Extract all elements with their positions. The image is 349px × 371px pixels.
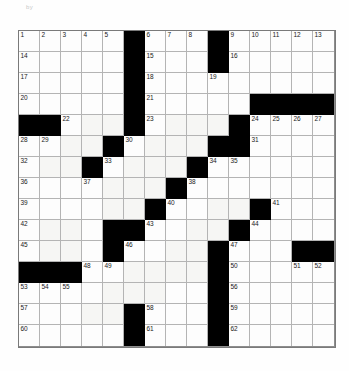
grid-letter-cell[interactable]: 51 [292,262,313,283]
grid-letter-cell[interactable] [187,115,208,136]
grid-letter-cell[interactable] [250,283,271,304]
grid-letter-cell[interactable]: 17 [19,73,40,94]
grid-letter-cell[interactable] [40,73,61,94]
grid-letter-cell[interactable]: 40 [166,199,187,220]
crossword-grid[interactable]: 1234567891011121314151617181920212223242… [18,30,335,347]
grid-letter-cell[interactable]: 28 [19,136,40,157]
grid-letter-cell[interactable]: 3 [61,31,82,52]
grid-letter-cell[interactable] [292,220,313,241]
grid-letter-cell[interactable] [40,304,61,325]
grid-letter-cell[interactable] [166,283,187,304]
grid-letter-cell[interactable] [208,178,229,199]
grid-letter-cell[interactable] [229,178,250,199]
grid-letter-cell[interactable] [145,136,166,157]
grid-letter-cell[interactable] [271,262,292,283]
grid-letter-cell[interactable] [229,73,250,94]
grid-letter-cell[interactable] [82,136,103,157]
grid-letter-cell[interactable]: 27 [313,115,334,136]
grid-letter-cell[interactable] [166,157,187,178]
grid-letter-cell[interactable] [271,283,292,304]
grid-letter-cell[interactable] [166,94,187,115]
grid-letter-cell[interactable]: 35 [229,157,250,178]
grid-letter-cell[interactable] [103,178,124,199]
grid-letter-cell[interactable]: 36 [19,178,40,199]
grid-letter-cell[interactable]: 20 [19,94,40,115]
grid-letter-cell[interactable] [208,220,229,241]
grid-letter-cell[interactable]: 59 [229,304,250,325]
grid-letter-cell[interactable] [292,199,313,220]
grid-letter-cell[interactable]: 2 [40,31,61,52]
grid-letter-cell[interactable] [166,220,187,241]
grid-letter-cell[interactable]: 25 [271,115,292,136]
grid-letter-cell[interactable]: 57 [19,304,40,325]
grid-letter-cell[interactable]: 53 [19,283,40,304]
grid-letter-cell[interactable]: 54 [40,283,61,304]
grid-letter-cell[interactable] [103,94,124,115]
grid-letter-cell[interactable] [313,136,334,157]
grid-letter-cell[interactable] [187,73,208,94]
grid-letter-cell[interactable] [271,178,292,199]
grid-letter-cell[interactable] [166,136,187,157]
grid-letter-cell[interactable] [229,199,250,220]
grid-letter-cell[interactable] [187,220,208,241]
grid-letter-cell[interactable] [271,241,292,262]
grid-letter-cell[interactable] [166,115,187,136]
grid-letter-cell[interactable]: 42 [19,220,40,241]
grid-letter-cell[interactable] [40,94,61,115]
grid-letter-cell[interactable]: 48 [82,262,103,283]
grid-letter-cell[interactable]: 30 [124,136,145,157]
grid-letter-cell[interactable] [292,157,313,178]
grid-letter-cell[interactable] [61,52,82,73]
grid-letter-cell[interactable] [61,241,82,262]
grid-letter-cell[interactable] [82,199,103,220]
grid-letter-cell[interactable]: 50 [229,262,250,283]
grid-letter-cell[interactable] [250,325,271,346]
grid-letter-cell[interactable]: 37 [82,178,103,199]
grid-letter-cell[interactable]: 56 [229,283,250,304]
grid-letter-cell[interactable]: 1 [19,31,40,52]
grid-letter-cell[interactable] [103,52,124,73]
grid-letter-cell[interactable] [103,283,124,304]
grid-letter-cell[interactable]: 5 [103,31,124,52]
grid-letter-cell[interactable] [250,52,271,73]
grid-letter-cell[interactable]: 45 [19,241,40,262]
grid-letter-cell[interactable]: 46 [124,241,145,262]
grid-letter-cell[interactable]: 38 [187,178,208,199]
grid-letter-cell[interactable] [82,94,103,115]
grid-letter-cell[interactable]: 23 [145,115,166,136]
grid-letter-cell[interactable]: 52 [313,262,334,283]
grid-letter-cell[interactable] [250,262,271,283]
grid-letter-cell[interactable] [292,52,313,73]
grid-letter-cell[interactable] [61,325,82,346]
grid-letter-cell[interactable] [82,52,103,73]
grid-letter-cell[interactable]: 6 [145,31,166,52]
grid-letter-cell[interactable]: 8 [187,31,208,52]
grid-letter-cell[interactable] [61,220,82,241]
grid-letter-cell[interactable] [271,73,292,94]
grid-letter-cell[interactable] [40,157,61,178]
grid-letter-cell[interactable]: 44 [250,220,271,241]
grid-letter-cell[interactable] [313,304,334,325]
grid-letter-cell[interactable] [166,304,187,325]
grid-letter-cell[interactable]: 4 [82,31,103,52]
grid-letter-cell[interactable]: 24 [250,115,271,136]
grid-letter-cell[interactable] [250,157,271,178]
grid-letter-cell[interactable] [166,325,187,346]
grid-letter-cell[interactable] [313,52,334,73]
grid-letter-cell[interactable] [40,52,61,73]
grid-letter-cell[interactable] [82,73,103,94]
grid-letter-cell[interactable] [187,325,208,346]
grid-letter-cell[interactable] [61,178,82,199]
grid-letter-cell[interactable] [208,94,229,115]
grid-letter-cell[interactable] [82,241,103,262]
grid-letter-cell[interactable] [313,73,334,94]
grid-letter-cell[interactable]: 10 [250,31,271,52]
grid-letter-cell[interactable] [313,283,334,304]
grid-letter-cell[interactable] [250,304,271,325]
grid-letter-cell[interactable] [250,178,271,199]
grid-letter-cell[interactable]: 32 [19,157,40,178]
grid-letter-cell[interactable]: 11 [271,31,292,52]
grid-letter-cell[interactable] [40,178,61,199]
grid-letter-cell[interactable]: 29 [40,136,61,157]
grid-letter-cell[interactable] [103,199,124,220]
